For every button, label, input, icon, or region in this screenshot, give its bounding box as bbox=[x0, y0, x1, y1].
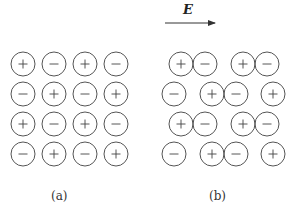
positive-ion-icon bbox=[200, 82, 224, 106]
negative-ion-icon bbox=[11, 82, 35, 106]
negative-ion-icon bbox=[193, 52, 217, 76]
negative-ion-icon bbox=[42, 52, 66, 76]
panel-a-caption: (a) bbox=[51, 189, 68, 203]
negative-ion-icon bbox=[73, 142, 97, 166]
positive-ion-icon bbox=[231, 112, 255, 136]
negative-ion-icon bbox=[42, 112, 66, 136]
negative-ion-icon bbox=[224, 82, 248, 106]
positive-ion-icon bbox=[11, 112, 35, 136]
positive-ion-icon bbox=[231, 52, 255, 76]
positive-ion-icon bbox=[42, 142, 66, 166]
negative-ion-icon bbox=[193, 112, 217, 136]
positive-ion-icon bbox=[200, 142, 224, 166]
electric-field-label: E bbox=[183, 2, 193, 17]
positive-ion-icon bbox=[104, 142, 128, 166]
negative-ion-icon bbox=[11, 142, 35, 166]
positive-ion-icon bbox=[169, 112, 193, 136]
positive-ion-icon bbox=[104, 82, 128, 106]
negative-ion-icon bbox=[224, 142, 248, 166]
negative-ion-icon bbox=[255, 112, 279, 136]
positive-ion-icon bbox=[73, 52, 97, 76]
ionic-polarization-diagram bbox=[0, 0, 295, 218]
positive-ion-icon bbox=[261, 82, 285, 106]
negative-ion-icon bbox=[162, 142, 186, 166]
negative-ion-icon bbox=[104, 52, 128, 76]
negative-ion-icon bbox=[104, 112, 128, 136]
negative-ion-icon bbox=[162, 82, 186, 106]
negative-ion-icon bbox=[73, 82, 97, 106]
positive-ion-icon bbox=[42, 82, 66, 106]
positive-ion-icon bbox=[11, 52, 35, 76]
negative-ion-icon bbox=[255, 52, 279, 76]
positive-ion-icon bbox=[169, 52, 193, 76]
panel-b-caption: (b) bbox=[209, 189, 226, 203]
positive-ion-icon bbox=[261, 142, 285, 166]
positive-ion-icon bbox=[73, 112, 97, 136]
